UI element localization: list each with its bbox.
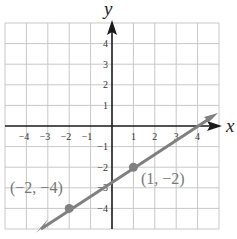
svg-text:−4: −4 [19, 131, 30, 142]
svg-text:4: 4 [195, 131, 200, 142]
svg-text:−1: −1 [82, 131, 93, 142]
coordinate-plane: x y −4 −3 −2 −1 1 2 3 4 4 3 2 1 −1 −2 −3… [0, 0, 237, 239]
svg-text:4: 4 [103, 38, 108, 49]
point-a-label: (−2, −4) [10, 179, 63, 197]
svg-text:2: 2 [152, 131, 157, 142]
svg-text:1: 1 [103, 100, 108, 111]
svg-text:−3: −3 [40, 131, 51, 142]
point-a [65, 204, 74, 213]
svg-text:−2: −2 [61, 131, 72, 142]
point-b [129, 163, 138, 172]
svg-text:−2: −2 [97, 162, 108, 173]
point-b-label: (1, −2) [141, 170, 185, 188]
y-axis-label: y [102, 0, 113, 19]
svg-text:1: 1 [131, 131, 136, 142]
svg-text:3: 3 [103, 59, 108, 70]
svg-text:2: 2 [103, 79, 108, 90]
svg-text:−4: −4 [97, 203, 108, 214]
x-tick-labels: −4 −3 −2 −1 1 2 3 4 [19, 131, 200, 142]
x-axis-label: x [225, 115, 235, 136]
svg-text:−1: −1 [97, 141, 108, 152]
